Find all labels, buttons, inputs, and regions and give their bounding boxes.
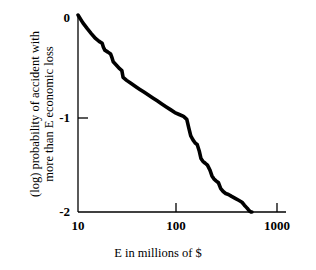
tick-marks-group xyxy=(78,118,277,212)
x-tick-label-100: 100 xyxy=(152,219,200,232)
x-tick-label-1000: 1000 xyxy=(251,219,303,232)
chart-figure: 0 -1 -2 10 100 1000 E in millions of $ (… xyxy=(0,0,316,270)
y-axis-title-line-1: (log) probability of accident with xyxy=(28,14,42,214)
y-axis-title: (log) probability of accident with more … xyxy=(28,14,57,214)
x-tick-label-10: 10 xyxy=(58,219,98,232)
x-axis-title-text: E in millions of $ xyxy=(114,246,202,260)
exceedance-curve xyxy=(78,15,252,212)
data-series-group xyxy=(78,15,252,212)
y-axis-title-line-2: more than E economic loss xyxy=(42,14,56,214)
x-axis-title: E in millions of $ xyxy=(0,246,316,260)
